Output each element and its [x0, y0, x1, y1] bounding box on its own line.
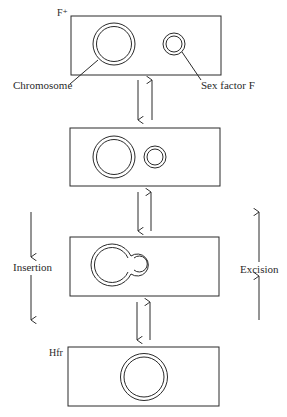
cell-box: [70, 237, 219, 296]
chromosome-circle: [93, 23, 135, 65]
excision-label: Excision: [240, 264, 279, 275]
stage-approaching: [70, 128, 220, 186]
stage-label-hfr: Hfr: [49, 348, 63, 358]
stage-f-plus: [70, 16, 221, 84]
stage-hfr: [68, 347, 219, 406]
stage-label-f-plus: F⁺: [57, 8, 68, 18]
sex-factor-leader-line: [182, 52, 201, 80]
stage-fused: [70, 237, 219, 296]
chromosome-leader-line: [70, 60, 98, 84]
sex-factor-circle: [163, 33, 185, 55]
insertion-label: Insertion: [13, 262, 52, 273]
sex-factor-label: Sex factor F: [201, 80, 255, 91]
chromosome-label: Chromosome: [13, 80, 72, 91]
diagram-canvas: [0, 0, 287, 417]
